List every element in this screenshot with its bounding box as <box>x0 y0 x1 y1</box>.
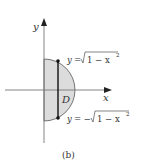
svg-text:=: = <box>74 55 81 65</box>
upper-curve-label: y = 1 − x 2 <box>66 52 120 65</box>
figure-caption: (b) <box>62 150 75 160</box>
upper-point <box>56 59 60 63</box>
region-label: D <box>61 94 70 105</box>
lower-curve-label: y = − 1 − x 2 <box>66 111 130 124</box>
lower-point <box>56 116 60 120</box>
svg-text:1 − x: 1 − x <box>97 114 120 124</box>
svg-text:= −: = − <box>74 114 91 124</box>
svg-text:1 − x: 1 − x <box>87 55 110 65</box>
x-axis-label: x <box>103 92 109 103</box>
half-disk-diagram: y x D y = 1 − x 2 y = − 1 − x 2 (b) <box>0 0 141 165</box>
svg-text:2: 2 <box>116 52 120 58</box>
svg-text:y: y <box>66 114 72 124</box>
y-axis-arrow-icon <box>41 18 47 26</box>
svg-text:y: y <box>66 55 72 65</box>
y-axis-label: y <box>32 21 39 32</box>
svg-text:2: 2 <box>126 111 130 117</box>
